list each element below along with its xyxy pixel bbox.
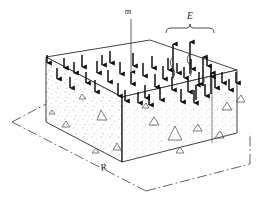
dim-bottom-right [146,164,250,191]
soil-block-diagram-svg: m E R [0,0,258,204]
dim-left-tick [12,104,46,122]
soil-block [46,40,237,162]
E-brace [166,24,214,33]
label-m: m [125,6,132,16]
figure-canvas: m E R [0,0,258,204]
label-E: E [186,11,193,21]
label-E-group: E [166,11,214,33]
label-R: R [98,162,107,173]
